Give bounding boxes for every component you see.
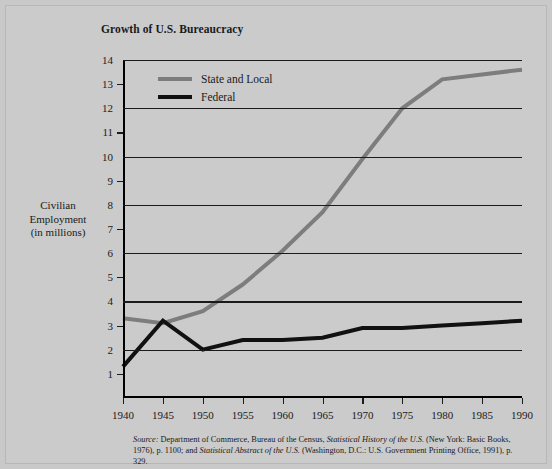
x-tick-label-1955: 1955 <box>232 409 254 421</box>
y-tick-5 <box>117 277 123 278</box>
y-axis-title-line-2: Employment <box>20 213 96 227</box>
y-tick-label-10: 10 <box>102 151 113 163</box>
y-tick-label-4: 4 <box>108 295 114 307</box>
y-tick-9 <box>117 181 123 182</box>
legend-label-state-and-local: State and Local <box>201 73 273 85</box>
x-tick-label-1940: 1940 <box>112 409 134 421</box>
gridline-10 <box>123 157 522 158</box>
y-tick-label-9: 9 <box>108 175 114 187</box>
figure-panel: Growth of U.S. Bureaucracy Civilian Empl… <box>6 6 546 463</box>
x-tick-1950 <box>203 398 204 404</box>
x-tick-label-1960: 1960 <box>272 409 294 421</box>
x-tick-1975 <box>402 398 403 404</box>
y-tick-label-13: 13 <box>102 78 113 90</box>
y-tick-label-12: 12 <box>102 102 113 114</box>
legend-item-state-and-local: State and Local <box>158 70 273 88</box>
chart-legend: State and Local Federal <box>158 70 273 106</box>
x-tick-label-1950: 1950 <box>192 409 214 421</box>
x-tick-label-1970: 1970 <box>351 409 373 421</box>
y-tick-label-6: 6 <box>108 247 114 259</box>
x-tick-1955 <box>243 398 244 404</box>
gridline-14 <box>123 60 522 61</box>
y-tick-label-14: 14 <box>102 54 113 66</box>
y-axis-title-line-1: Civilian <box>20 199 96 213</box>
x-tick-label-1980: 1980 <box>431 409 453 421</box>
gridline-4 <box>123 301 522 302</box>
y-tick-label-5: 5 <box>108 271 114 283</box>
gridline-8 <box>123 205 522 206</box>
x-tick-label-1965: 1965 <box>312 409 334 421</box>
y-tick-11 <box>117 132 123 133</box>
legend-swatch-federal <box>158 95 192 100</box>
y-axis-title: Civilian Employment (in millions) <box>20 199 96 240</box>
source-label: Source: <box>133 435 159 444</box>
source-italic-1: Statistical History of the U.S. <box>327 435 424 444</box>
x-tick-1990 <box>522 398 523 404</box>
y-tick-7 <box>117 229 123 230</box>
y-tick-label-8: 8 <box>108 199 114 211</box>
gridline-2 <box>123 350 522 351</box>
gridline-6 <box>123 253 522 254</box>
x-tick-1940 <box>123 398 124 404</box>
y-tick-3 <box>117 326 123 327</box>
x-tick-1945 <box>163 398 164 404</box>
y-tick-1 <box>117 374 123 375</box>
source-italic-2: Statistical Abstract of the U.S. <box>200 446 300 455</box>
page-title: Growth of U.S. Bureaucracy <box>101 23 243 35</box>
x-tick-1960 <box>283 398 284 404</box>
legend-swatch-state-and-local <box>158 77 192 82</box>
series-layer <box>123 60 522 398</box>
x-tick-label-1945: 1945 <box>152 409 174 421</box>
plot-area: 1234567891011121314 19401945195019551960… <box>123 60 522 398</box>
y-tick-13 <box>117 84 123 85</box>
y-tick-label-7: 7 <box>108 223 114 235</box>
y-tick-label-1: 1 <box>108 368 114 380</box>
y-axis-line <box>123 60 125 398</box>
x-tick-label-1985: 1985 <box>471 409 493 421</box>
gridline-12 <box>123 108 522 109</box>
source-caption: Source: Department of Commerce, Bureau o… <box>133 434 525 468</box>
x-tick-1970 <box>362 398 363 404</box>
y-tick-label-2: 2 <box>108 344 114 356</box>
legend-label-federal: Federal <box>201 91 235 103</box>
source-text-1: Department of Commerce, Bureau of the Ce… <box>159 435 327 444</box>
x-tick-1980 <box>442 398 443 404</box>
y-axis-title-line-3: (in millions) <box>20 226 96 240</box>
x-tick-label-1990: 1990 <box>511 409 533 421</box>
x-tick-1965 <box>323 398 324 404</box>
y-tick-label-3: 3 <box>108 320 114 332</box>
series-line-federal <box>123 321 522 367</box>
y-tick-label-11: 11 <box>102 126 113 138</box>
legend-item-federal: Federal <box>158 88 273 106</box>
x-tick-1985 <box>482 398 483 404</box>
x-tick-label-1975: 1975 <box>391 409 413 421</box>
